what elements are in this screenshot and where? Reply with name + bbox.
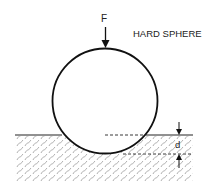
force-label: F — [101, 13, 107, 24]
hard-sphere-label: HARD SPHERE — [133, 28, 202, 39]
depth-arrow-top-icon — [176, 122, 182, 135]
material-substrate — [15, 49, 193, 183]
depth-label: d — [175, 139, 180, 150]
force-arrow-icon — [102, 27, 110, 48]
